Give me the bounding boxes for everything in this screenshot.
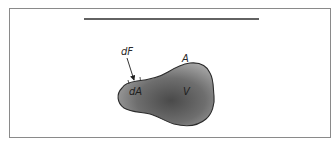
control-volume-diagram: dF dA A V (0, 0, 336, 143)
volume-label: V (183, 86, 191, 97)
force-label: dF (121, 46, 133, 57)
force-arrow (127, 58, 134, 80)
flow-lines (84, 19, 259, 37)
area-element-label: dA (129, 86, 142, 97)
area-element-tick-right (140, 77, 141, 81)
surface-label: A (181, 53, 189, 64)
